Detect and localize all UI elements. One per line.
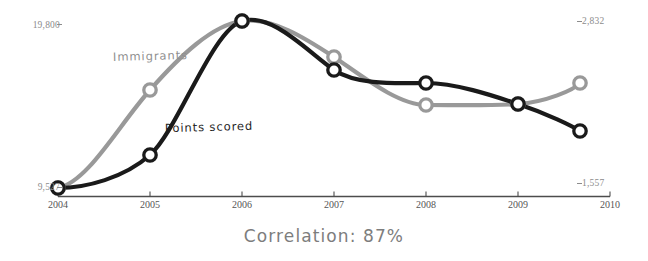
x-axis-label-2006: 2006 bbox=[219, 199, 265, 210]
x-axis-label-2005: 2005 bbox=[127, 199, 173, 210]
x-axis-label-2004: 2004 bbox=[35, 199, 81, 210]
series-label-points-scored: Points scored bbox=[165, 119, 253, 135]
x-axis-label-2008: 2008 bbox=[403, 199, 449, 210]
x-axis-label-2009: 2009 bbox=[495, 199, 541, 210]
right-axis-max-label: 2,832 bbox=[582, 16, 642, 26]
correlation-caption: Correlation: 87% bbox=[0, 226, 648, 246]
series-label-immigrants: Immigrants bbox=[113, 48, 188, 64]
left-axis-max-label: 19,800 bbox=[4, 20, 60, 30]
x-axis-label-2010: 2010 bbox=[587, 199, 633, 210]
left-axis-min-label: 9,527 bbox=[4, 182, 60, 192]
x-axis-label-2007: 2007 bbox=[311, 199, 357, 210]
x-axis-ticks bbox=[58, 192, 610, 197]
chart-plot-area bbox=[0, 0, 648, 261]
left-axis-max-tick bbox=[57, 24, 62, 25]
spurious-correlation-chart: 19,800 9,527 2,832 1,557 2004 2005 2006 … bbox=[0, 0, 648, 261]
left-axis-min-tick bbox=[57, 187, 62, 188]
right-axis-min-label: 1,557 bbox=[582, 178, 642, 188]
